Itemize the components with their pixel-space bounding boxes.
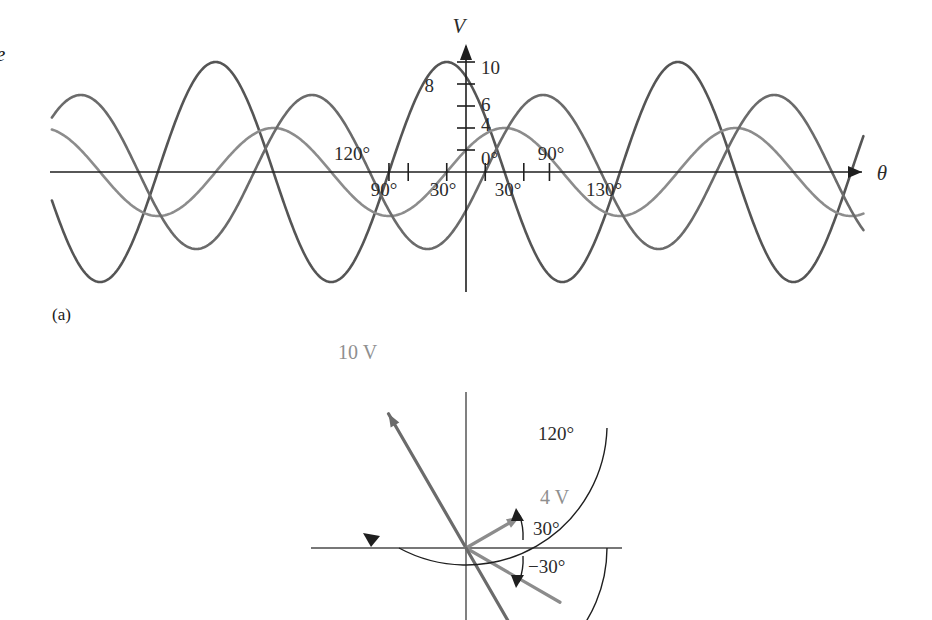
phasor-angle-30-label: 30°: [533, 518, 560, 539]
phasor-label-4v: 4 V: [540, 486, 570, 508]
theta-tick-label-0: 0°: [481, 148, 498, 169]
phasor-reference-axes: [311, 392, 622, 620]
v-tick-label-10: 10: [481, 57, 500, 78]
v-tick-label-8: 8: [425, 75, 435, 96]
phasor-line-1: [389, 414, 467, 548]
v-tick-label-4: 4: [481, 114, 491, 135]
theta-axis: [50, 166, 862, 178]
arc-120-arrowhead: [363, 533, 380, 547]
theta-tick-label-30: 30°: [495, 179, 522, 200]
theta-axis-label: θ: [877, 161, 887, 185]
phasor-diagram: 10 V 4 V 120° 30° −30°: [0, 330, 932, 620]
theta-tick-label-130: 130°: [586, 179, 622, 200]
v-axis-label: V: [453, 14, 468, 38]
part-label-a-text: (a): [52, 305, 71, 324]
waveform-chart: V θ 10 8 6 4 120° 0° 90° 90° 30° 30° 130…: [0, 0, 932, 320]
phasor-angle-minus-30-label: −30°: [528, 556, 565, 577]
theta-axis-arrowhead: [848, 166, 862, 178]
phasor-label-10v: 10 V: [338, 341, 378, 363]
arc-30-arrowhead: [511, 508, 524, 521]
theta-tick-label-minus30: 30°: [430, 179, 457, 200]
phasor-arrows: [389, 414, 560, 620]
left-edge-fragment: e: [0, 42, 16, 68]
v-axis-arrowhead: [460, 44, 472, 60]
arc-120: [399, 428, 607, 565]
arc-outer-lower: [565, 548, 607, 620]
part-label-a: (a): [52, 305, 71, 325]
phasor-angle-120-label: 120°: [538, 423, 574, 444]
angle-arcs: [363, 428, 607, 620]
phasor-arrowhead-1: [389, 414, 400, 428]
theta-tick-label-90-right: 90°: [538, 143, 565, 164]
left-edge-fragment-text: e: [0, 42, 5, 66]
theta-tick-label-minus90: 90°: [371, 179, 398, 200]
v-tick-label-6: 6: [481, 94, 491, 115]
theta-tick-label-minus120: 120°: [334, 143, 370, 164]
